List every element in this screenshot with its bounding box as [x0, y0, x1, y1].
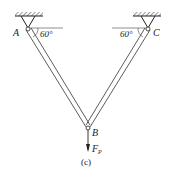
force-arrow-icon: [86, 130, 90, 152]
pin-c: [146, 27, 150, 31]
label-c: C: [153, 27, 160, 38]
bar-cb: [86, 28, 150, 127]
diagram-canvas: A C B 60° 60° FP (c): [0, 0, 175, 174]
pin-b: [86, 126, 90, 130]
truss-diagram: A C B 60° 60° FP (c): [0, 0, 175, 174]
caption: (c): [81, 157, 91, 167]
label-a: A: [12, 27, 20, 38]
angle-right: 60°: [120, 29, 133, 39]
angle-left: 60°: [40, 29, 53, 39]
label-force: FP: [91, 143, 102, 155]
support-c: [133, 12, 161, 28]
pin-a: [26, 27, 30, 31]
bar-ab: [26, 28, 90, 127]
support-a: [15, 12, 43, 28]
label-b: B: [92, 127, 98, 138]
